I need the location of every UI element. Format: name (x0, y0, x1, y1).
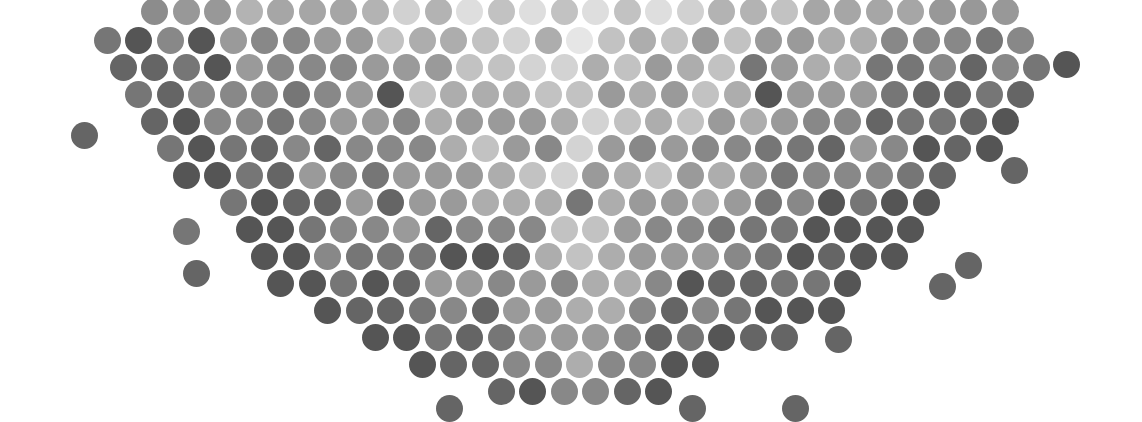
halftone-dot (582, 0, 609, 25)
halftone-dot (834, 162, 861, 189)
halftone-dot (992, 0, 1019, 25)
halftone-dot (94, 27, 121, 54)
halftone-dot (456, 270, 483, 297)
halftone-dot (708, 270, 735, 297)
halftone-dot (1001, 157, 1028, 184)
halftone-dot (519, 270, 546, 297)
halftone-dot (503, 135, 530, 162)
halftone-dot (771, 54, 798, 81)
halftone-dot (346, 135, 373, 162)
halftone-dot (645, 54, 672, 81)
halftone-dot (692, 243, 719, 270)
halftone-dot (472, 189, 499, 216)
halftone-dot (787, 189, 814, 216)
halftone-dot (803, 270, 830, 297)
halftone-dot (188, 27, 215, 54)
halftone-dot (929, 162, 956, 189)
halftone-dot (629, 27, 656, 54)
halftone-dot (661, 189, 688, 216)
halftone-dot (362, 108, 389, 135)
halftone-dot (141, 0, 168, 25)
halftone-dot (267, 216, 294, 243)
halftone-dot (267, 0, 294, 25)
halftone-dot (409, 297, 436, 324)
halftone-dot (362, 216, 389, 243)
halftone-dot (551, 54, 578, 81)
halftone-dot (771, 216, 798, 243)
halftone-dot (708, 162, 735, 189)
halftone-dot (661, 351, 688, 378)
halftone-dot (188, 81, 215, 108)
halftone-dot (913, 135, 940, 162)
halftone-dot (818, 189, 845, 216)
halftone-dot (897, 0, 924, 25)
halftone-dot (173, 108, 200, 135)
halftone-dot (425, 54, 452, 81)
halftone-dot (393, 54, 420, 81)
halftone-dot (157, 27, 184, 54)
halftone-dot (440, 135, 467, 162)
halftone-dot (818, 81, 845, 108)
halftone-dot (551, 216, 578, 243)
halftone-dot (283, 135, 310, 162)
halftone-dot (314, 297, 341, 324)
halftone-dot (173, 162, 200, 189)
halftone-dot (267, 270, 294, 297)
halftone-dot (299, 108, 326, 135)
halftone-dot (314, 243, 341, 270)
halftone-dot (677, 54, 704, 81)
halftone-dot (881, 81, 908, 108)
halftone-dot (157, 81, 184, 108)
halftone-dot (236, 0, 263, 25)
halftone-dot (535, 81, 562, 108)
halftone-dot (755, 135, 782, 162)
halftone-dot (850, 243, 877, 270)
halftone-dot (220, 189, 247, 216)
halftone-dot (677, 162, 704, 189)
halftone-dot (661, 27, 688, 54)
halftone-dot (173, 218, 200, 245)
halftone-dot (409, 135, 436, 162)
halftone-dot (488, 162, 515, 189)
halftone-dot (661, 81, 688, 108)
halftone-dot (551, 0, 578, 25)
halftone-dot (472, 81, 499, 108)
halftone-dot (393, 162, 420, 189)
halftone-dot (1053, 51, 1080, 78)
halftone-dot (346, 243, 373, 270)
halftone-dot (488, 216, 515, 243)
halftone-dot (503, 27, 530, 54)
halftone-dot (503, 189, 530, 216)
halftone-dot (141, 108, 168, 135)
halftone-dot (629, 297, 656, 324)
halftone-dot (661, 243, 688, 270)
halftone-dot (818, 27, 845, 54)
halftone-dot (834, 270, 861, 297)
halftone-dot (803, 54, 830, 81)
halftone-dot (519, 216, 546, 243)
halftone-dot (330, 0, 357, 25)
halftone-dot (456, 54, 483, 81)
halftone-dot (755, 81, 782, 108)
halftone-dot (251, 135, 278, 162)
halftone-dot (488, 108, 515, 135)
halftone-dot (866, 216, 893, 243)
halftone-dot (787, 243, 814, 270)
halftone-dot (472, 243, 499, 270)
halftone-dot (582, 108, 609, 135)
halftone-dot (377, 189, 404, 216)
halftone-dot (346, 27, 373, 54)
halftone-dot (157, 135, 184, 162)
halftone-dot (535, 243, 562, 270)
halftone-dot (724, 297, 751, 324)
halftone-dot (677, 108, 704, 135)
halftone-dot (724, 189, 751, 216)
halftone-dot (267, 162, 294, 189)
halftone-dot (456, 108, 483, 135)
halftone-dot (267, 54, 294, 81)
halftone-dot (913, 189, 940, 216)
halftone-dot (834, 0, 861, 25)
halftone-dot (692, 297, 719, 324)
halftone-dot (519, 108, 546, 135)
halftone-dot (897, 162, 924, 189)
